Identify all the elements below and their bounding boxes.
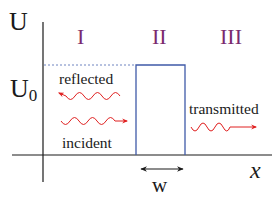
region-label-ii: II (152, 24, 167, 49)
region-label-iii: III (220, 24, 242, 49)
transmitted-label: transmitted (189, 100, 259, 117)
u0-label-main: U (10, 74, 29, 103)
potential-barrier (136, 65, 185, 155)
region-label-i: I (77, 24, 84, 49)
barrier-diagram: U U0 I II III reflected incident transmi… (0, 0, 280, 197)
reflected-wave (66, 93, 120, 100)
reflected-label: reflected (59, 70, 113, 87)
reflected-arrow-icon (59, 93, 66, 96)
x-axis-label: x (249, 157, 261, 183)
u0-label-subscript: 0 (29, 86, 38, 105)
width-label: w (152, 173, 168, 197)
incident-label: incident (62, 134, 113, 151)
transmitted-wave (191, 123, 230, 131)
u0-label: U0 (10, 74, 37, 105)
y-axis-label: U (9, 7, 28, 36)
incident-wave (61, 118, 115, 125)
